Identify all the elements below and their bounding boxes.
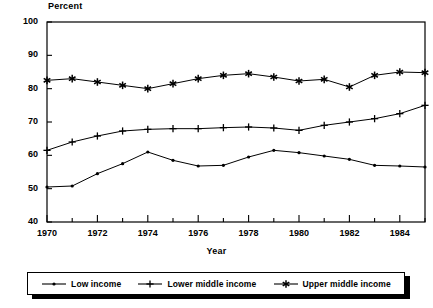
data-point	[398, 164, 401, 167]
series-line	[47, 105, 425, 150]
data-point	[45, 185, 48, 188]
legend-entry-lower-middle-income[interactable]: Lower middle income	[137, 278, 256, 290]
series-upper-middle-income	[44, 68, 429, 92]
series-line	[47, 72, 425, 89]
data-point	[423, 165, 426, 168]
data-point	[323, 154, 326, 157]
legend-entry-upper-middle-income[interactable]: Upper middle income	[273, 278, 391, 290]
data-point	[297, 151, 300, 154]
data-point	[197, 164, 200, 167]
data-point	[247, 155, 250, 158]
plus-marker-icon	[137, 278, 163, 290]
legend-shadow-right	[405, 276, 410, 299]
data-point	[71, 184, 74, 187]
legend-label: Upper middle income	[303, 279, 391, 289]
data-point	[272, 149, 275, 152]
legend-shadow-bottom	[32, 295, 410, 299]
legend-label: Low income	[71, 279, 121, 289]
data-point	[348, 158, 351, 161]
series-line	[47, 150, 425, 187]
legend: Low incomeLower middle incomeUpper middl…	[27, 272, 405, 295]
data-point	[373, 164, 376, 167]
data-point	[171, 159, 174, 162]
legend-marker	[53, 282, 56, 285]
data-point	[146, 150, 149, 153]
data-point	[121, 162, 124, 165]
line-chart: Percent Year 405060708090100 19701972197…	[0, 0, 433, 308]
dot-marker-icon	[41, 278, 67, 290]
legend-entry-low-income[interactable]: Low income	[41, 278, 121, 290]
asterisk-marker-icon	[273, 278, 299, 290]
series-low-income	[45, 149, 426, 189]
data-point	[96, 172, 99, 175]
plot-area	[0, 0, 433, 308]
plot-frame	[47, 22, 425, 222]
series-lower-middle-income	[43, 102, 428, 154]
legend-label: Lower middle income	[167, 279, 256, 289]
data-point	[222, 164, 225, 167]
